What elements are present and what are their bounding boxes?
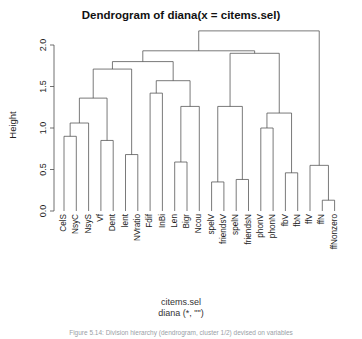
leaf-label: spelN bbox=[231, 214, 240, 235]
y-axis-title: Height bbox=[7, 111, 18, 139]
leaf-label: spelV bbox=[207, 213, 216, 234]
leaf-label: friendsV bbox=[219, 213, 228, 244]
y-axis-tick-label: 1.0 bbox=[38, 122, 48, 135]
leaf-label: CelS bbox=[59, 213, 68, 231]
leaf-label: lent bbox=[121, 213, 130, 227]
leaf-label: ffNonzero bbox=[330, 214, 339, 250]
dendrogram-plot: Dendrogram of diana(x = citems.sel) Heig… bbox=[0, 0, 362, 339]
y-axis-tick-label: 2.0 bbox=[38, 39, 48, 52]
leaf-label: ffV bbox=[305, 213, 314, 223]
leaf-label: friendsN bbox=[244, 214, 253, 245]
caption-line-2: diana (*, "") bbox=[158, 308, 203, 318]
leaf-label: fbN bbox=[293, 214, 302, 227]
leaf-label: Bigr bbox=[182, 214, 191, 229]
leaf-label: phonN bbox=[268, 214, 277, 238]
leaf-label: Dent bbox=[108, 213, 117, 231]
leaf-label: NsyC bbox=[71, 214, 80, 234]
leaf-label: Vf bbox=[96, 213, 105, 221]
y-axis-tick-label: 0.5 bbox=[38, 163, 48, 176]
leaf-label: NsyS bbox=[84, 213, 93, 233]
figure-footer: Figure 5.14: Division hierarchy (dendrog… bbox=[69, 329, 293, 337]
leaf-label: ffN bbox=[317, 214, 326, 224]
caption-line-1: citems.sel bbox=[161, 297, 201, 307]
leaf-label: phonV bbox=[256, 213, 265, 237]
y-axis-tick-label: 0.0 bbox=[38, 205, 48, 218]
leaf-label: NVratio bbox=[133, 214, 142, 241]
leaf-label: Len bbox=[170, 214, 179, 228]
page-title: Dendrogram of diana(x = citems.sel) bbox=[82, 9, 281, 21]
leaf-label: Ncou bbox=[194, 214, 203, 234]
leaf-label: fbV bbox=[281, 213, 290, 226]
leaf-label: InBi bbox=[158, 214, 167, 228]
y-axis-tick-label: 1.5 bbox=[38, 80, 48, 93]
leaf-label: Fdif bbox=[145, 213, 154, 227]
